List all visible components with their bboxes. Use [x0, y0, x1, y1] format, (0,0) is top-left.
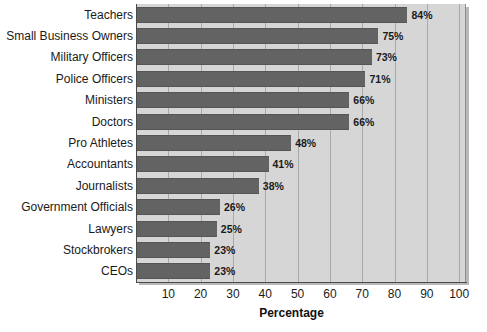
bar-value-label: 41%: [273, 157, 294, 171]
bar: [136, 28, 378, 44]
x-tick-label: 60: [323, 287, 336, 301]
bar-row: [136, 156, 465, 172]
bar-value-label: 84%: [411, 8, 432, 22]
x-axis-line: [136, 282, 467, 283]
bar: [136, 71, 365, 87]
x-tick-label: 80: [388, 287, 401, 301]
bar-value-label: 66%: [353, 93, 374, 107]
bar: [136, 178, 259, 194]
bar-value-label: 66%: [353, 115, 374, 129]
category-label: Government Officials: [0, 200, 133, 214]
bar-row: [136, 28, 465, 44]
bar-row: [136, 92, 465, 108]
category-label: Doctors: [0, 115, 133, 129]
x-tick-label: 100: [449, 287, 469, 301]
bar: [136, 114, 349, 130]
category-label: Teachers: [0, 8, 133, 22]
category-label: Lawyers: [0, 222, 133, 236]
x-tick-label: 10: [162, 287, 175, 301]
category-label: Journalists: [0, 179, 133, 193]
category-label: Police Officers: [0, 72, 133, 86]
bar: [136, 92, 349, 108]
category-axis-labels: TeachersSmall Business OwnersMilitary Of…: [0, 0, 133, 282]
bar-row: [136, 114, 465, 130]
bar-value-label: 71%: [369, 72, 390, 86]
bar-value-label: 23%: [214, 264, 235, 278]
bar: [136, 135, 291, 151]
bar-value-label: 75%: [382, 29, 403, 43]
bar: [136, 221, 217, 237]
bar-row: [136, 49, 465, 65]
y-axis-line: [136, 4, 137, 283]
bar: [136, 156, 269, 172]
bar-value-label: 38%: [263, 179, 284, 193]
bar-value-label: 48%: [295, 136, 316, 150]
x-axis-title: Percentage: [0, 306, 487, 321]
bar-row: [136, 263, 465, 279]
bar: [136, 263, 210, 279]
x-tick-label: 20: [194, 287, 207, 301]
category-label: Accountants: [0, 157, 133, 171]
bar-row: [136, 221, 465, 237]
bar: [136, 49, 372, 65]
x-axis-title-text: Percentage: [259, 306, 324, 321]
x-tick-label: 90: [420, 287, 433, 301]
category-label: Military Officers: [0, 50, 133, 64]
chart-figure: TeachersSmall Business OwnersMilitary Of…: [0, 0, 487, 332]
bar-row: [136, 242, 465, 258]
category-label: Pro Athletes: [0, 136, 133, 150]
x-tick-label: 50: [291, 287, 304, 301]
bar-row: [136, 199, 465, 215]
x-tick-label: 40: [259, 287, 272, 301]
bar: [136, 7, 407, 23]
bar-value-label: 25%: [221, 222, 242, 236]
bar-value-label: 23%: [214, 243, 235, 257]
category-label: CEOs: [0, 264, 133, 278]
category-label: Stockbrokers: [0, 243, 133, 257]
bar-row: [136, 178, 465, 194]
x-tick-label: 30: [226, 287, 239, 301]
bar: [136, 242, 210, 258]
bar-value-label: 73%: [376, 50, 397, 64]
x-tick-label: 70: [356, 287, 369, 301]
category-label: Ministers: [0, 93, 133, 107]
bar-value-label: 26%: [224, 200, 245, 214]
bar-row: [136, 71, 465, 87]
bar: [136, 199, 220, 215]
category-label: Small Business Owners: [0, 29, 133, 43]
